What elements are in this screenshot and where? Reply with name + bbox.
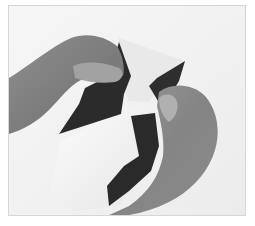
photo-frame	[8, 5, 246, 216]
origami-photo	[9, 6, 246, 216]
